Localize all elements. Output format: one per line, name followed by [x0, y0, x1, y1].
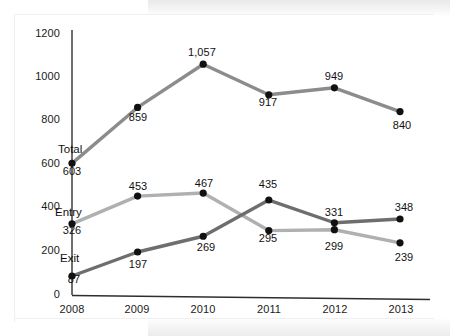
x-tick-label: 2008	[49, 303, 95, 315]
data-point-value-label: 1,057	[180, 46, 224, 58]
series-label-total: Total	[58, 143, 82, 155]
data-point-value-label: 299	[312, 240, 356, 252]
data-point-total-2010	[200, 61, 207, 68]
data-point-value-label: 467	[182, 177, 226, 189]
y-tick-label: 400	[18, 200, 60, 212]
data-point-entry-2012	[331, 226, 338, 233]
x-tick-label: 2013	[378, 303, 424, 315]
x-axis-line	[72, 296, 430, 300]
y-tick-label: 800	[18, 113, 60, 125]
line-chart: 120010008006004002000 200820092010201120…	[0, 0, 450, 336]
series-label-exit: Exit	[60, 252, 79, 264]
data-point-value-label: 348	[382, 201, 426, 213]
data-point-exit-2012	[331, 219, 338, 226]
data-point-value-label: 840	[380, 119, 424, 131]
data-point-value-label: 435	[246, 178, 290, 190]
data-point-value-label: 239	[382, 251, 426, 263]
y-tick-label: 200	[18, 244, 60, 256]
scanned-chart-page: 120010008006004002000 200820092010201120…	[0, 0, 450, 336]
y-tick-label: 1000	[18, 70, 60, 82]
data-point-exit-2010	[200, 233, 207, 240]
data-point-entry-2009	[134, 192, 141, 199]
data-point-value-label: 603	[50, 165, 94, 177]
data-point-value-label: 197	[116, 258, 160, 270]
data-point-total-2012	[331, 84, 338, 91]
data-point-total-2013	[396, 108, 403, 115]
data-point-value-label: 326	[50, 224, 94, 236]
y-tick-label: 0	[18, 288, 60, 300]
data-point-value-label: 269	[184, 241, 228, 253]
data-point-exit-2011	[265, 196, 272, 203]
data-point-entry-2013	[396, 239, 403, 246]
x-tick-label: 2009	[114, 303, 160, 315]
data-point-value-label: 87	[52, 273, 96, 285]
data-point-value-label: 917	[246, 96, 290, 108]
data-point-exit-2009	[134, 248, 141, 255]
data-point-exit-2013	[396, 215, 403, 222]
data-point-value-label: 453	[116, 180, 160, 192]
data-point-value-label: 859	[116, 111, 160, 123]
data-point-value-label: 295	[246, 232, 290, 244]
series-label-entry: Entry	[55, 206, 82, 218]
data-point-total-2009	[134, 104, 141, 111]
data-point-value-label: 949	[312, 70, 356, 82]
data-point-value-label: 331	[312, 206, 356, 218]
data-point-entry-2010	[200, 189, 207, 196]
x-tick-label: 2010	[180, 303, 226, 315]
x-tick-label: 2012	[312, 303, 358, 315]
x-tick-label: 2011	[246, 303, 292, 315]
y-tick-label: 1200	[18, 27, 60, 39]
